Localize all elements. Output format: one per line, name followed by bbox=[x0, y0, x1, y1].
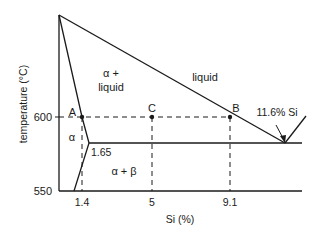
liquidus-right-line bbox=[285, 116, 306, 143]
region-label-alpha: α bbox=[69, 131, 76, 143]
y-tick-label-550: 550 bbox=[34, 185, 52, 197]
phase-diagram: temperature (°C) 600 550 1.4 5 9.1 Si (%… bbox=[0, 0, 318, 235]
x-tick-label-9.1: 9.1 bbox=[223, 196, 238, 208]
region-label-alpha-beta: α + β bbox=[111, 165, 136, 177]
region-label-alpha-plus: α + bbox=[103, 67, 119, 79]
eutectic-label: 11.6% Si bbox=[256, 106, 297, 118]
point-C-marker bbox=[150, 115, 154, 119]
y-axis-label: temperature (°C) bbox=[17, 65, 29, 143]
point-A-marker bbox=[80, 115, 84, 119]
x-tick-label-1.4: 1.4 bbox=[75, 196, 90, 208]
y-tick-label-600: 600 bbox=[34, 111, 52, 123]
x-tick-label-5: 5 bbox=[149, 196, 155, 208]
point-C-label: C bbox=[148, 102, 156, 114]
x-axis-label: Si (%) bbox=[166, 213, 195, 225]
region-label-liquid: liquid bbox=[192, 71, 218, 83]
solvus-value-label: 1.65 bbox=[91, 146, 112, 158]
solidus-line bbox=[59, 15, 89, 143]
region-label-liquid-2: liquid bbox=[98, 81, 124, 93]
point-B-label: B bbox=[232, 102, 239, 114]
point-B-marker bbox=[228, 115, 232, 119]
liquidus-left-line bbox=[59, 15, 285, 143]
point-A-label: A bbox=[69, 106, 77, 118]
